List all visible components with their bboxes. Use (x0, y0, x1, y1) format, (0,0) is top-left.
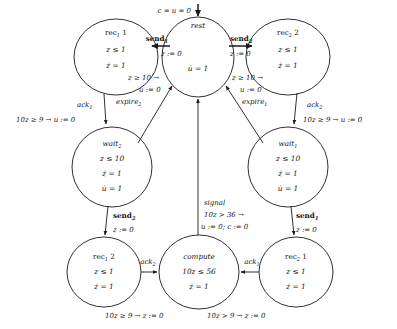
node-rec2-2-inv-1: ż = 1 (277, 61, 298, 70)
state-diagram-canvas: rec1 1 z ≤ 1 ż = 1 rest u̇ = 1 rec2 2 z … (0, 0, 397, 329)
node-rec1-2-label: rec1 2 (93, 252, 115, 262)
edge-label-expire2: expire2 (116, 98, 142, 107)
edge-label-expire1: expire1 (242, 98, 268, 107)
node-rec2-1[interactable]: rec2 1 z ≤ 1 ż = 1 (259, 237, 333, 307)
node-wait1-inv-1: ż = 1 (277, 169, 298, 178)
edge-label-ack2-lower: ack2 (140, 258, 156, 267)
edge-label-bottom-right-guard: 10z > 9 → z := 0 (207, 312, 266, 320)
node-rest-inv-0: u̇ = 1 (188, 64, 208, 73)
edge-label-send2-lower-assign: z := 0 (112, 226, 134, 234)
edge-wait1-to-rec2-1 (291, 206, 294, 235)
node-compute[interactable]: compute 10z ≤ 56 ż = 1 (159, 235, 239, 309)
node-rec2-1-label: rec2 1 (285, 252, 307, 262)
node-rec1-1-label: rec1 1 (105, 28, 127, 38)
edge-wait1-to-rest (226, 86, 263, 143)
node-wait1-inv-0: z ≤ 10 (275, 154, 300, 163)
edge-wait2-to-rest (138, 86, 172, 143)
edge-label-signal-guard: 10z > 36 → (204, 211, 244, 219)
node-wait2-inv-0: z ≤ 10 (99, 154, 124, 163)
edge-wait2-to-rec1-2 (105, 206, 108, 235)
edge-label-bottom-left-guard: 10z ≥ 9 → z := 0 (105, 312, 164, 320)
edge-label-ack2: ack2 (307, 101, 323, 110)
node-rec1-1-inv-1: ż = 1 (105, 61, 126, 70)
node-rec2-2[interactable]: rec2 2 z ≤ 1 ż = 1 (246, 19, 330, 95)
edge-label-send1-lower: send1 (296, 211, 318, 221)
node-rec2-2-label: rec2 2 (277, 28, 299, 38)
edge-label-signal-assign: u := 0; c := 0 (201, 223, 249, 231)
edge-rec1-1-to-wait2 (104, 94, 106, 124)
node-wait2-inv-1: ż = 1 (101, 169, 122, 178)
node-rec1-2[interactable]: rec1 2 z ≤ 1 ż = 1 (67, 237, 141, 307)
node-rec1-1-inv-0: z ≤ 1 (105, 45, 126, 54)
node-rec1-1[interactable]: rec1 1 z ≤ 1 ż = 1 (74, 19, 158, 95)
edge-label-send2-lower: send2 (113, 211, 136, 221)
edge-label-ack1: ack1 (77, 101, 93, 110)
node-rec2-1-inv-1: ż = 1 (285, 282, 306, 291)
edge-label-ack1-lower: ack1 (244, 258, 260, 267)
edge-label-send2-assign: z := 0 (229, 50, 251, 58)
node-rest-label: rest (191, 21, 205, 30)
edge-label-expire1-assign: u := 0 (240, 86, 262, 94)
edge-label-send1: send1 (146, 34, 168, 44)
edge-label-expire1-guard: z ≥ 10 → (231, 74, 263, 82)
node-compute-inv-1: ż = 1 (188, 282, 209, 291)
node-compute-label: compute (183, 252, 215, 261)
edge-label-ack1-guard: 10z ≥ 9 → u := 0 (16, 116, 76, 124)
node-rec1-2-inv-0: z ≤ 1 (93, 267, 114, 276)
edge-label-initial: c = u = 0 (157, 7, 191, 15)
node-wait2-inv-2: u̇ = 1 (102, 184, 122, 193)
node-compute-inv-0: 10z ≤ 56 (182, 267, 216, 276)
edge-rec2-2-to-wait1 (294, 93, 297, 124)
node-rec2-2-inv-0: z ≤ 1 (277, 45, 298, 54)
edge-label-send1-assign: z := 0 (160, 50, 182, 58)
node-rec2-1-inv-0: z ≤ 1 (285, 267, 306, 276)
edge-label-signal: signal (204, 199, 225, 207)
edge-label-ack2-guard: 10z ≥ 9 → u := 0 (303, 116, 363, 124)
node-wait1-inv-2: u̇ = 1 (278, 184, 298, 193)
edge-label-send1-lower-assign: z := 0 (295, 226, 317, 234)
edge-label-send2: send2 (230, 34, 253, 44)
node-rec1-2-inv-1: ż = 1 (93, 282, 114, 291)
edge-label-expire2-assign: u := 0 (139, 86, 161, 94)
diagram-svg: rec1 1 z ≤ 1 ż = 1 rest u̇ = 1 rec2 2 z … (0, 0, 397, 329)
edge-label-expire2-guard: z ≥ 10 → (127, 74, 159, 82)
